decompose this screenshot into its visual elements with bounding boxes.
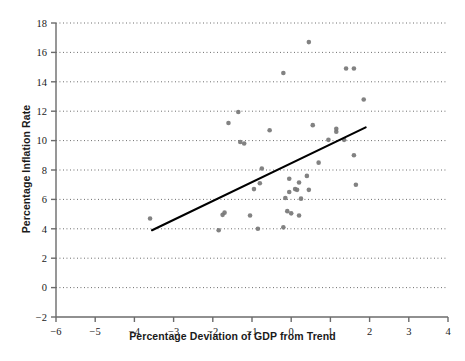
data-point [297,213,302,218]
data-point [148,216,153,221]
data-point [295,188,300,193]
data-point [326,138,331,143]
data-point [256,227,261,232]
data-point [252,187,257,192]
data-points [148,40,366,233]
data-point [352,153,357,158]
data-point [242,141,247,146]
data-point [283,196,288,201]
y-tick-label: 14 [37,77,48,88]
y-tick-label: 16 [37,47,48,58]
data-point [258,181,263,186]
data-point [352,66,357,71]
data-point [307,188,312,193]
data-point [287,177,292,182]
data-point [289,211,294,216]
data-point [316,160,321,165]
y-tick-label: 4 [42,224,48,235]
data-point [334,129,339,134]
data-point [226,121,231,126]
plot-canvas: −2024681012141618 −6−5−4−3−2−101234 [0,0,465,361]
data-point [344,66,349,71]
data-point [267,128,272,133]
trend-line [152,127,366,230]
data-point [238,140,243,145]
y-axis-ticks: −2024681012141618 [36,18,56,323]
data-point [281,225,286,230]
y-tick-label: −2 [36,312,47,323]
y-tick-label: 8 [42,165,47,176]
scatter-plot-figure: −2024681012141618 −6−5−4−3−2−101234 Perc… [0,0,465,361]
y-tick-label: 18 [37,18,48,29]
data-point [287,190,292,195]
data-point [248,213,253,218]
data-point [310,123,315,128]
data-point [354,182,359,187]
data-point [297,180,302,185]
data-point [361,97,366,102]
data-point [281,71,286,76]
data-point [307,40,312,45]
data-point [222,210,227,215]
data-point [299,196,304,201]
y-tick-label: 10 [37,135,48,146]
grid-lines [56,23,448,288]
y-tick-label: 2 [42,253,47,264]
data-point [236,110,241,115]
trend-line-segment [152,127,366,230]
data-point [216,228,221,233]
y-axis-title: Percentage Inflation Rate [20,39,32,299]
data-point [305,174,310,179]
data-point [285,209,290,214]
x-axis-title: Percentage Deviation of GDP from Trend [0,330,465,342]
data-point [260,166,265,171]
y-tick-label: 6 [42,194,47,205]
y-tick-label: 0 [42,282,47,293]
y-tick-label: 12 [37,106,48,117]
